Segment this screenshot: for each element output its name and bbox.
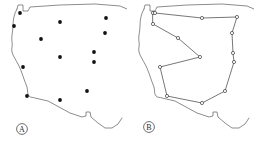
site-point xyxy=(92,60,96,64)
tour-node xyxy=(165,94,168,97)
panel-badge-label-b: B xyxy=(146,123,151,132)
site-points-layer xyxy=(12,11,108,102)
site-point xyxy=(12,24,16,28)
site-point xyxy=(104,16,108,20)
panel-badge-a: A xyxy=(17,124,28,135)
site-point xyxy=(103,31,107,35)
site-point xyxy=(58,20,62,24)
tour-node xyxy=(158,65,161,68)
site-point xyxy=(58,55,62,59)
panel-b: B xyxy=(127,0,254,144)
tour-node xyxy=(176,36,179,39)
tour-node xyxy=(153,11,156,14)
tour-node xyxy=(198,55,201,58)
site-point xyxy=(39,37,43,41)
panel-a: A xyxy=(0,0,127,144)
tour-node xyxy=(231,51,234,54)
map-outline-coast-and-south-a xyxy=(12,9,122,128)
tour-node xyxy=(232,60,235,63)
site-point xyxy=(25,94,29,98)
site-point xyxy=(92,50,96,54)
site-point xyxy=(85,89,89,93)
site-point xyxy=(58,98,62,102)
map-outline-north-border-b xyxy=(144,4,254,11)
site-point xyxy=(18,11,22,15)
tour-node xyxy=(200,101,203,104)
map-outline-b xyxy=(139,4,254,128)
site-point xyxy=(21,65,25,69)
map-outline-coast-and-south-b xyxy=(139,9,249,128)
panel-badge-b: B xyxy=(144,122,155,133)
tour-node xyxy=(200,16,203,19)
tour-node xyxy=(151,22,154,25)
tour-node xyxy=(235,15,238,18)
panel-badge-label-a: A xyxy=(19,125,25,134)
two-panel-map-figure: A B xyxy=(0,0,254,144)
tour-node xyxy=(223,89,226,92)
map-outline-a xyxy=(12,4,127,128)
map-outline-north-border-a xyxy=(17,4,127,11)
tour-node xyxy=(230,31,233,34)
